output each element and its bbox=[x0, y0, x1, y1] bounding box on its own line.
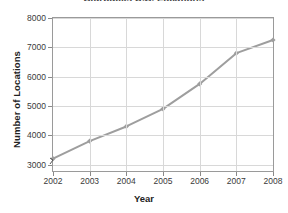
x-tick-mark bbox=[163, 172, 164, 176]
x-tick-mark bbox=[236, 172, 237, 176]
chart-figure: Starbucks U.S. Locations Number of Locat… bbox=[0, 0, 288, 213]
axis-break-icon bbox=[47, 155, 59, 167]
y-tick-label: 6000 bbox=[0, 72, 46, 82]
x-tick-label: 2004 bbox=[106, 176, 146, 186]
y-tick-label: 7000 bbox=[0, 42, 46, 52]
gridline-vertical bbox=[163, 18, 164, 171]
gridline-vertical bbox=[126, 18, 127, 171]
x-tick-label: 2003 bbox=[70, 176, 110, 186]
x-tick-mark bbox=[53, 172, 54, 176]
gridline-vertical bbox=[90, 18, 91, 171]
y-tick-label: 5000 bbox=[0, 101, 46, 111]
x-tick-label: 2008 bbox=[253, 176, 288, 186]
x-tick-label: 2005 bbox=[143, 176, 183, 186]
x-tick-label: 2002 bbox=[33, 176, 73, 186]
y-tick-label: 8000 bbox=[0, 13, 46, 23]
x-tick-label: 2007 bbox=[216, 176, 256, 186]
x-tick-mark bbox=[273, 172, 274, 176]
plot-area bbox=[52, 17, 274, 172]
x-tick-mark bbox=[90, 172, 91, 176]
data-point-marker bbox=[270, 37, 275, 42]
x-tick-mark bbox=[126, 172, 127, 176]
y-tick-label: 4000 bbox=[0, 130, 46, 140]
gridline-vertical bbox=[236, 18, 237, 171]
gridline-vertical bbox=[200, 18, 201, 171]
x-tick-label: 2006 bbox=[180, 176, 220, 186]
plot-inner bbox=[53, 18, 273, 171]
x-tick-mark bbox=[200, 172, 201, 176]
y-tick-label: 3000 bbox=[0, 160, 46, 170]
